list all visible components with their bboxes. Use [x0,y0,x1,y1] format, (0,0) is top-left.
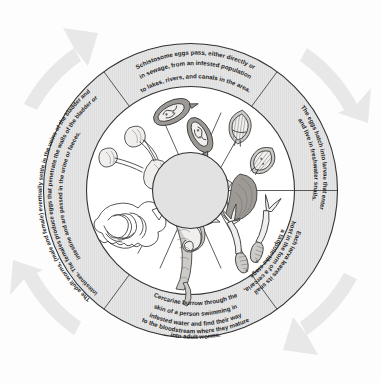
diagram-canvas: Schistosome eggs pass, either directly o… [0,0,381,383]
life-cycle-diagram: Schistosome eggs pass, either directly o… [0,0,381,383]
diagram-hub [153,153,229,229]
